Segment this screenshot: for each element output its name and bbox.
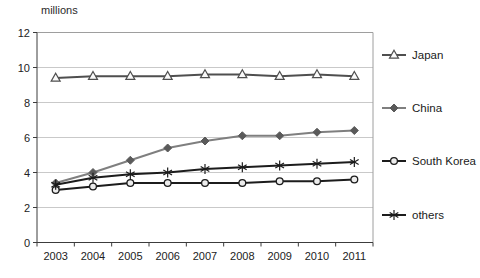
svg-text:4: 4 [24, 167, 30, 179]
x-axis [37, 243, 373, 247]
point-south-korea-2010 [314, 178, 321, 185]
point-south-korea-2007 [202, 180, 209, 187]
legend-label-south-korea: South Korea [412, 154, 476, 168]
point-south-korea-2011 [351, 176, 358, 183]
legend-marker-others-icon [381, 208, 407, 222]
legend-marker-japan-icon [381, 48, 407, 62]
svg-text:2007: 2007 [193, 250, 217, 262]
svg-text:8: 8 [24, 97, 30, 109]
legend-entry-japan: Japan [381, 48, 443, 62]
legend-entry-china: China [381, 101, 442, 115]
legend-marker-china-icon [381, 101, 407, 115]
point-south-korea-2006 [164, 180, 171, 187]
y-axis-unit-label: millions [41, 4, 78, 16]
point-south-korea-2009 [276, 178, 283, 185]
svg-text:12: 12 [18, 27, 30, 39]
svg-text:2003: 2003 [43, 250, 67, 262]
legend-label-japan: Japan [412, 48, 443, 62]
legend-label-others: others [412, 208, 444, 222]
legend-label-china: China [412, 101, 442, 115]
svg-text:2005: 2005 [118, 250, 142, 262]
legend-point-china [390, 104, 398, 112]
y-tick-labels: 024681012 [18, 27, 30, 249]
legend-marker-south-korea-icon [381, 154, 407, 168]
svg-text:2010: 2010 [305, 250, 329, 262]
legend-entry-south-korea: South Korea [381, 154, 476, 168]
svg-text:2004: 2004 [81, 250, 105, 262]
svg-text:6: 6 [24, 132, 30, 144]
y-axis [33, 33, 37, 243]
svg-text:0: 0 [24, 237, 30, 249]
x-tick-labels: 200320042005200620072008200920102011 [43, 250, 366, 262]
point-south-korea-2008 [239, 180, 246, 187]
point-south-korea-2004 [90, 183, 97, 190]
legend-point-south-korea [391, 158, 398, 165]
line-chart: 0246810122003200420052006200720082009201… [0, 0, 480, 278]
svg-text:2011: 2011 [343, 250, 367, 262]
chart-figure: 0246810122003200420052006200720082009201… [0, 0, 480, 278]
point-south-korea-2005 [127, 180, 134, 187]
svg-text:2006: 2006 [155, 250, 179, 262]
svg-text:2: 2 [24, 202, 30, 214]
svg-text:2008: 2008 [230, 250, 254, 262]
svg-text:10: 10 [18, 62, 30, 74]
legend-entry-others: others [381, 208, 444, 222]
svg-text:2009: 2009 [267, 250, 291, 262]
